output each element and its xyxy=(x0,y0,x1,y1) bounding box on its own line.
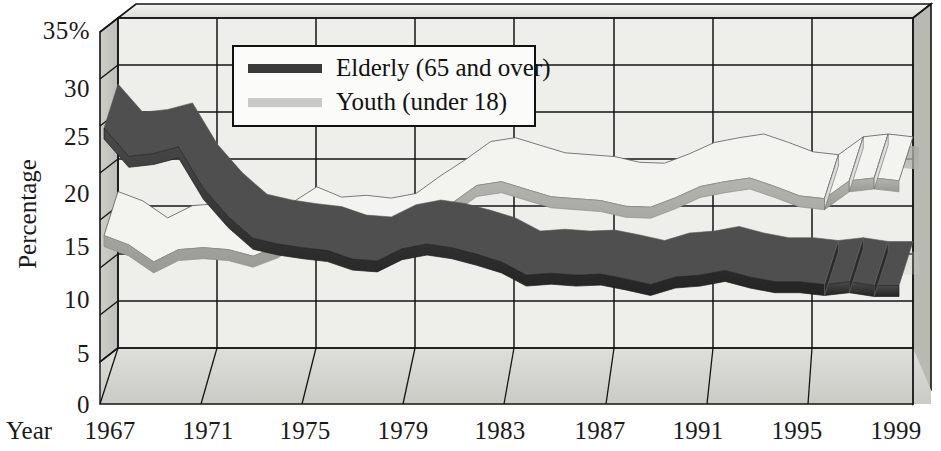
legend-swatch-elderly xyxy=(248,64,322,73)
chart-legend: Elderly (65 and over) Youth (under 18) xyxy=(232,45,536,127)
x-tick-1987: 1987 xyxy=(560,418,640,443)
plot-right-wall xyxy=(913,4,931,404)
x-tick-1983: 1983 xyxy=(460,418,540,443)
legend-item-youth: Youth (under 18) xyxy=(234,85,534,119)
x-tick-1991: 1991 xyxy=(658,418,738,443)
x-axis-title: Year xyxy=(6,418,52,443)
x-tick-1967: 1967 xyxy=(70,418,150,443)
x-tick-1971: 1971 xyxy=(168,418,248,443)
legend-swatch-youth xyxy=(248,98,322,107)
plot-top-face xyxy=(118,4,931,18)
x-tick-1979: 1979 xyxy=(363,418,443,443)
legend-label-youth: Youth (under 18) xyxy=(336,89,507,115)
plot-left-wall xyxy=(100,18,118,362)
chart-container: 35% 30 25 20 15 10 5 0 Percentage xyxy=(0,0,941,451)
x-tick-1995: 1995 xyxy=(757,418,837,443)
x-tick-1975: 1975 xyxy=(265,418,345,443)
legend-label-elderly: Elderly (65 and over) xyxy=(336,55,551,81)
plot-floor-front xyxy=(100,348,913,404)
legend-item-elderly: Elderly (65 and over) xyxy=(234,51,534,85)
ribbon-front-face xyxy=(874,178,899,192)
x-tick-1999: 1999 xyxy=(856,418,936,443)
ribbon-front-face xyxy=(874,286,899,297)
